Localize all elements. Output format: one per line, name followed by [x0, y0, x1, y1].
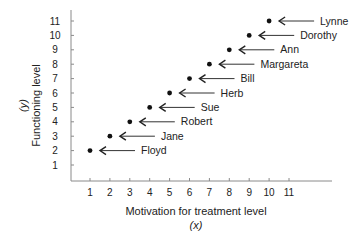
x-tick-label: 3	[127, 187, 133, 198]
x-axis-title: Motivation for treatment level	[125, 205, 266, 217]
y-tick-label: 11	[50, 16, 61, 27]
data-point	[127, 119, 132, 124]
point-group: Margareta	[207, 58, 308, 70]
data-point	[207, 62, 212, 67]
x-tick-label: 1	[87, 187, 93, 198]
point-group: Jane	[108, 130, 184, 142]
scatter-chart: 1234567891011 1234567891011 FloydJaneRob…	[0, 0, 358, 239]
y-tick-label: 5	[52, 102, 58, 113]
x-tick-label: 4	[147, 187, 153, 198]
point-group: Herb	[167, 87, 243, 99]
point-label: Lynne	[320, 15, 348, 27]
data-points: FloydJaneRobertSueHerbBillMargaretaAnnDo…	[88, 15, 349, 157]
point-label: Margareta	[260, 58, 308, 70]
point-label: Ann	[280, 43, 299, 55]
point-label: Jane	[161, 130, 184, 142]
point-label: Floyd	[141, 144, 167, 156]
y-tick-label: 2	[52, 145, 58, 156]
y-ticks: 1234567891011	[49, 16, 74, 171]
point-label: Sue	[201, 101, 220, 113]
point-label: Bill	[241, 72, 255, 84]
y-tick-label: 7	[52, 73, 58, 84]
point-group: Floyd	[88, 144, 167, 156]
y-axis-variable: (y)	[17, 99, 29, 112]
point-label: Dorothy	[300, 29, 338, 41]
y-tick-label: 10	[49, 30, 61, 41]
x-tick-label: 10	[264, 187, 276, 198]
data-point	[267, 19, 272, 24]
data-point	[147, 105, 152, 110]
x-tick-label: 6	[187, 187, 193, 198]
data-point	[88, 148, 93, 153]
x-tick-label: 8	[227, 187, 233, 198]
y-tick-label: 1	[52, 160, 58, 171]
x-tick-label: 7	[207, 187, 213, 198]
point-group: Dorothy	[247, 29, 338, 41]
point-label: Robert	[181, 115, 213, 127]
data-point	[227, 47, 232, 52]
y-tick-label: 8	[52, 59, 58, 70]
x-tick-label: 2	[107, 187, 113, 198]
x-tick-label: 11	[284, 187, 295, 198]
data-point	[167, 91, 172, 96]
y-axis-title: Functioning level	[30, 64, 42, 147]
point-group: Ann	[227, 43, 299, 55]
y-tick-label: 4	[52, 116, 58, 127]
point-label: Herb	[221, 87, 244, 99]
point-group: Lynne	[267, 15, 349, 27]
data-point	[247, 33, 252, 38]
y-tick-label: 6	[52, 88, 58, 99]
data-point	[187, 76, 192, 81]
x-axis-variable: (x)	[190, 219, 203, 231]
data-point	[108, 134, 113, 139]
point-group: Sue	[147, 101, 219, 113]
y-tick-label: 9	[52, 44, 58, 55]
x-tick-label: 5	[167, 187, 173, 198]
point-group: Robert	[127, 115, 212, 127]
point-group: Bill	[187, 72, 254, 84]
x-tick-label: 9	[246, 187, 252, 198]
y-tick-label: 3	[52, 131, 58, 142]
